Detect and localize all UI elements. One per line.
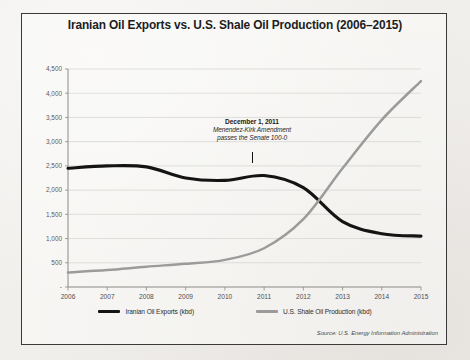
annotation-line-2: passes the Senate 100-0 xyxy=(186,134,318,142)
annotation-date: December 1, 2011 xyxy=(186,118,318,126)
x-axis-tick-label: 2009 xyxy=(178,293,193,300)
x-axis-tick-label: 2007 xyxy=(100,293,115,300)
y-axis-tick-label: 2,500 xyxy=(46,162,62,169)
legend-swatch-gray xyxy=(256,310,278,312)
legend-label-iranian-oil-exports: Iranian Oil Exports (kbd) xyxy=(125,308,194,315)
legend-item-us-shale-oil-production[interactable]: U.S. Shale Oil Production (kbd) xyxy=(256,308,372,315)
annotation-line-1: Menendez-Kirk Amendment xyxy=(186,126,318,134)
y-axis-tick-label: - xyxy=(60,283,62,290)
x-axis-tick-label: 2011 xyxy=(257,293,272,300)
y-axis-tick-label: 500 xyxy=(51,259,62,266)
y-axis-tick-label: 1,500 xyxy=(46,211,62,218)
y-axis-tick-label: 4,500 xyxy=(46,65,62,72)
x-axis-tick-label: 2013 xyxy=(335,293,350,300)
legend-item-iranian-oil-exports[interactable]: Iranian Oil Exports (kbd) xyxy=(98,308,194,315)
y-axis-tick-label: 1,000 xyxy=(46,235,62,242)
event-annotation: December 1, 2011 Menendez-Kirk Amendment… xyxy=(186,118,318,142)
x-axis-tick-label: 2012 xyxy=(296,293,311,300)
chart-svg: -5001,0001,5002,0002,5003,0003,5004,0004… xyxy=(0,0,470,360)
y-axis-tick-label: 2,000 xyxy=(46,186,62,193)
source-label: Source: xyxy=(317,330,337,336)
y-axis-tick-label: 4,000 xyxy=(46,90,62,97)
x-axis-tick-label: 2010 xyxy=(218,293,233,300)
x-axis-tick-label: 2008 xyxy=(139,293,154,300)
chart-page: Iranian Oil Exports vs. U.S. Shale Oil P… xyxy=(0,0,470,360)
plot-area: -5001,0001,5002,0002,5003,0003,5004,0004… xyxy=(0,0,470,360)
y-axis-tick-label: 3,000 xyxy=(46,138,62,145)
chart-legend: Iranian Oil Exports (kbd) U.S. Shale Oil… xyxy=(0,308,470,315)
series-line-iranian-oil-exports xyxy=(68,166,421,237)
legend-swatch-black xyxy=(98,310,120,313)
y-axis-tick-label: 3,500 xyxy=(46,114,62,121)
legend-label-us-shale-oil-production: U.S. Shale Oil Production (kbd) xyxy=(283,308,372,315)
chart-source-note: Source: U.S. Energy Information Administ… xyxy=(317,330,438,336)
x-axis-tick-label: 2015 xyxy=(414,293,429,300)
annotation-pointer-tick xyxy=(252,152,254,163)
x-axis-tick-label: 2006 xyxy=(61,293,76,300)
source-text: U.S. Energy Information Administration xyxy=(338,330,438,336)
x-axis-tick-label: 2014 xyxy=(374,293,389,300)
